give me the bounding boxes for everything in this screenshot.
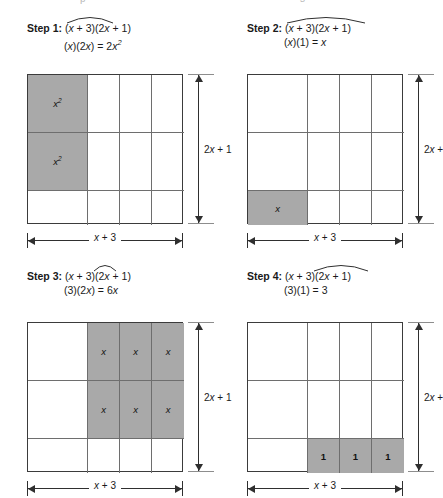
- step-1-cell-r1c3: [152, 133, 184, 191]
- step-3-cell-r2c1: [88, 439, 120, 473]
- step-2-cell-r0c0: [248, 75, 308, 133]
- step-4-product-line: (3)(1) = 3: [247, 284, 437, 298]
- step-1-cell-r1c0: x2: [28, 133, 88, 191]
- step-4-width-label: x + 3: [309, 480, 341, 491]
- step-2-cell-r2c2: [340, 191, 372, 225]
- step-3-expression-line: Step 3: (x + 3)(2x + 1): [27, 270, 217, 284]
- step-2-label: Step 2:: [247, 22, 285, 34]
- step-1-cell-label-r1c0: x2: [53, 155, 61, 167]
- step-4-width-arrow-left-icon: [248, 485, 255, 493]
- step-4-height-label: 2x +: [424, 389, 443, 406]
- step-1-height-rule: [198, 74, 199, 224]
- step-1-cell-r2c1: [88, 191, 120, 225]
- step-4-height-dimension: 2x +: [411, 322, 427, 472]
- step-3-cell-label-r1c1: x: [101, 404, 106, 415]
- step-1-height-arrow-up-icon: [195, 75, 203, 82]
- step-3-cell-r1c0: [28, 381, 88, 439]
- step-2-heading: Step 2: (x + 3)(2x + 1)(x)(1) = x: [247, 22, 437, 50]
- step-3-cell-label-r0c3: x: [166, 346, 171, 357]
- step-1-binomial-product: (x + 3)(2x + 1): [65, 22, 131, 34]
- step-3-area-grid: xxxxxx: [27, 322, 183, 472]
- step-1-cell-r1c1: [88, 133, 120, 191]
- step-2-width-dimension: x + 3: [247, 233, 403, 249]
- step-3-binomial-product: (x + 3)(2x + 1): [65, 270, 131, 282]
- step-4-cell-r1c1: [308, 381, 340, 439]
- step-2-cell-r1c3: [372, 133, 404, 191]
- step-2-cell-r1c2: [340, 133, 372, 191]
- step-4-cell-label-r2c2: 1: [353, 451, 358, 462]
- step-3-product-line: (3)(2x) = 6x: [27, 284, 217, 298]
- step-2-width-label: x + 3: [309, 232, 341, 243]
- step-1-height-tick-bottom: [188, 223, 214, 224]
- step-4-cell-r2c2: 1: [340, 439, 372, 473]
- step-4-height-rule: [418, 322, 419, 472]
- step-1-cell-r0c1: [88, 75, 120, 133]
- step-4-cell-r2c0: [248, 439, 308, 473]
- step-3-cell-r1c1: x: [88, 381, 120, 439]
- step-1-cell-label-r0c0: x2: [53, 97, 61, 109]
- step-4-width-tick-right: [402, 481, 403, 496]
- step-2-width-tick-right: [402, 233, 403, 248]
- step-2-cell-r0c3: [372, 75, 404, 133]
- step-3-cell-r0c0: [28, 323, 88, 381]
- step-3-width-dimension: x + 3: [27, 481, 183, 497]
- step-1-label: Step 1:: [27, 22, 65, 34]
- step-3-cell-label-r0c1: x: [101, 346, 106, 357]
- step-4-cell-r2c1: 1: [308, 439, 340, 473]
- step-3-height-arrow-down-icon: [195, 464, 203, 471]
- step-2-cell-r0c2: [340, 75, 372, 133]
- panel-step-3: Step 3: (x + 3)(2x + 1)(3)(2x) = 6xxxxxx…: [0, 250, 219, 498]
- step-3-cell-r1c2: x: [120, 381, 152, 439]
- step-4-width-arrow-right-icon: [395, 485, 402, 493]
- step-3-cell-r1c3: x: [152, 381, 184, 439]
- step-3-cell-label-r0c2: x: [133, 346, 138, 357]
- step-2-height-arrow-down-icon: [415, 216, 423, 223]
- step-3-cell-r0c3: x: [152, 323, 184, 381]
- step-4-cell-r0c1: [308, 323, 340, 381]
- step-2-width-arrow-right-icon: [395, 237, 402, 245]
- step-3-height-tick-bottom: [188, 471, 214, 472]
- step-1-cell-r0c3: [152, 75, 184, 133]
- step-2-cell-r2c0: x: [248, 191, 308, 225]
- step-4-heading: Step 4: (x + 3)(2x + 1)(3)(1) = 3: [247, 270, 437, 298]
- step-2-binomial-product: (x + 3)(2x + 1): [285, 22, 351, 34]
- panel-step-2: Step 2: (x + 3)(2x + 1)(x)(1) = xxx + 32…: [220, 2, 439, 250]
- step-4-area-grid: 111: [247, 322, 403, 472]
- step-1-expression-line: Step 1: (x + 3)(2x + 1): [27, 22, 217, 36]
- step-1-exponent: 2: [117, 38, 121, 47]
- step-4-cell-r0c0: [248, 323, 308, 381]
- step-3-label: Step 3:: [27, 270, 65, 282]
- step-1-cell-r2c0: [28, 191, 88, 225]
- step-2-height-rule: [418, 74, 419, 224]
- step-1-cell-r1c2: [120, 133, 152, 191]
- step-3-cell-label-r1c3: x: [166, 404, 171, 415]
- step-3-width-arrow-right-icon: [175, 485, 182, 493]
- step-2-cell-r0c1: [308, 75, 340, 133]
- step-3-height-rule: [198, 322, 199, 472]
- clipped-top-text: p s: [0, 0, 439, 7]
- step-2-height-dimension: 2x +: [411, 74, 427, 224]
- step-3-width-tick-right: [182, 481, 183, 496]
- step-1-height-dimension: 2x + 1: [191, 74, 207, 224]
- step-4-cell-r0c3: [372, 323, 404, 381]
- step-2-width-arrow-left-icon: [248, 237, 255, 245]
- step-1-width-label: x + 3: [89, 232, 121, 243]
- step-4-height-tick-bottom: [408, 471, 434, 472]
- step-4-cell-r1c3: [372, 381, 404, 439]
- step-4-cell-r2c3: 1: [372, 439, 404, 473]
- step-2-product-line: (x)(1) = x: [247, 36, 437, 50]
- step-2-cell-r1c1: [308, 133, 340, 191]
- step-1-cell-r0c2: [120, 75, 152, 133]
- step-3-heading: Step 3: (x + 3)(2x + 1)(3)(2x) = 6x: [27, 270, 217, 298]
- step-2-height-label: 2x +: [424, 141, 443, 158]
- step-3-height-dimension: 2x + 1: [191, 322, 207, 472]
- step-4-cell-label-r2c3: 1: [385, 451, 390, 462]
- step-1-width-arrow-right-icon: [175, 237, 182, 245]
- step-4-width-dimension: x + 3: [247, 481, 403, 497]
- step-1-width-dimension: x + 3: [27, 233, 183, 249]
- panel-step-1: Step 1: (x + 3)(2x + 1)(x)(2x) = 2x2x2x2…: [0, 2, 219, 250]
- step-1-width-arrow-left-icon: [28, 237, 35, 245]
- step-4-cell-label-r2c1: 1: [321, 451, 326, 462]
- step-2-cell-r1c0: [248, 133, 308, 191]
